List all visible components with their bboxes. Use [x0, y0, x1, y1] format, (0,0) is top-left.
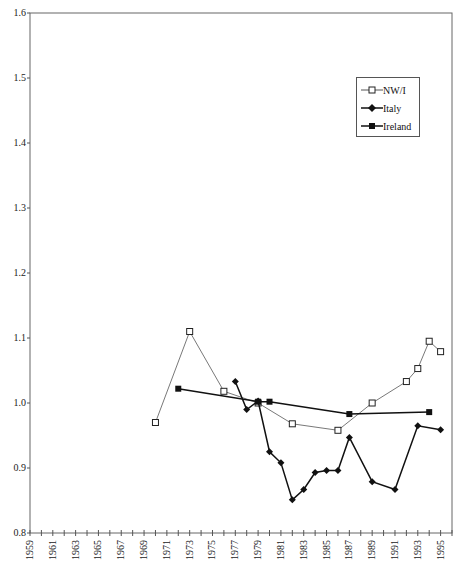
series-line-ireland [178, 389, 429, 414]
data-point [334, 467, 341, 474]
legend-item-italy: Italy [361, 101, 401, 115]
x-tick-label: 1975 [206, 540, 217, 560]
data-point [232, 378, 239, 385]
y-tick-label: 1.0 [14, 397, 27, 408]
chart-legend: NW/I Italy Ireland [356, 77, 420, 137]
data-point [426, 409, 432, 415]
data-point [255, 399, 261, 405]
y-tick-label: 0.9 [14, 462, 27, 473]
x-tick-label: 1965 [92, 540, 103, 560]
data-point [437, 426, 444, 433]
data-point [414, 422, 421, 429]
legend-label: Ireland [383, 121, 411, 132]
data-point [415, 366, 421, 372]
data-point [391, 486, 398, 493]
x-tick-label: 1993 [412, 540, 423, 560]
x-tick-label: 1991 [389, 540, 400, 560]
x-tick-label: 1983 [298, 540, 309, 560]
data-point [369, 400, 375, 406]
y-tick-label: 0.8 [14, 527, 27, 538]
data-point [335, 427, 341, 433]
data-point [438, 349, 444, 355]
x-tick-label: 1967 [115, 540, 126, 560]
x-tick-label: 1981 [275, 540, 286, 560]
y-tick-label: 1.3 [14, 202, 27, 213]
data-point [175, 386, 181, 392]
legend-item-ireland: Ireland [361, 119, 411, 133]
y-tick-label: 1.5 [14, 72, 27, 83]
data-point [346, 411, 352, 417]
x-tick-label: 1987 [343, 540, 354, 560]
data-point [187, 329, 193, 335]
legend-label: Italy [383, 103, 401, 114]
x-tick-label: 1959 [24, 540, 35, 560]
x-tick-label: 1969 [138, 540, 149, 560]
x-tick-label: 1995 [435, 540, 446, 560]
x-tick-label: 1977 [229, 540, 240, 560]
x-tick-label: 1971 [161, 540, 172, 560]
data-point [403, 379, 409, 385]
x-tick-label: 1979 [252, 540, 263, 560]
filled-square-marker-icon [361, 121, 383, 131]
y-tick-label: 1.2 [14, 267, 27, 278]
y-tick-label: 1.1 [14, 332, 27, 343]
y-tick-label: 1.4 [14, 137, 27, 148]
series-line-nwi [155, 332, 440, 431]
data-point [267, 399, 273, 405]
x-tick-label: 1963 [70, 540, 81, 560]
data-point [289, 421, 295, 427]
y-tick-label: 1.6 [14, 7, 27, 18]
legend-item-nwi: NW/I [361, 83, 406, 97]
diamond-marker-icon [361, 103, 383, 113]
data-point [221, 388, 227, 394]
open-square-marker-icon [361, 85, 383, 95]
series-line-italy [235, 382, 440, 500]
data-point [369, 478, 376, 485]
data-point [323, 467, 330, 474]
legend-label: NW/I [383, 85, 406, 96]
data-point [152, 420, 158, 426]
x-tick-label: 1989 [366, 540, 377, 560]
x-tick-label: 1961 [47, 540, 58, 560]
x-tick-label: 1985 [321, 540, 332, 560]
data-point [346, 434, 353, 441]
x-tick-label: 1973 [184, 540, 195, 560]
data-point [426, 338, 432, 344]
